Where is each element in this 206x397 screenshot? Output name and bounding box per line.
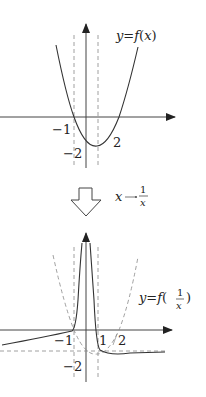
top-tick-neg1: −1	[52, 122, 71, 137]
transform-denominator: x	[140, 197, 146, 208]
tick-separator-slash	[113, 334, 117, 345]
maps-to-dot	[135, 196, 137, 198]
bottom-function-label: y=f(	[138, 290, 167, 305]
bottom-tick-neg2: −2	[63, 359, 82, 374]
bottom-tick-pos2: 2	[118, 333, 126, 348]
top-graph: y=f(x) −1 −2 2	[0, 24, 175, 168]
bottom-label-numerator: 1	[177, 287, 183, 298]
bottom-graph: y=f( 1 x ) −1 −2 1 2	[0, 233, 191, 382]
transform-x-label: x	[115, 189, 123, 204]
bottom-label-rparen: )	[186, 290, 191, 305]
transform-numerator: 1	[140, 184, 146, 195]
down-arrow-icon	[71, 188, 101, 216]
top-tick-pos2: 2	[113, 135, 121, 150]
top-tick-neg2: −2	[63, 146, 82, 161]
bottom-tick-pos1: 1	[99, 333, 107, 348]
transform-indicator: x 1 x	[71, 184, 148, 216]
bottom-tick-neg1: −1	[54, 333, 73, 348]
function-transform-diagram: y=f(x) −1 −2 2 x 1 x y=f( 1 x ) −1 −2 1	[0, 0, 206, 397]
bottom-label-denominator: x	[176, 300, 182, 311]
top-function-label: y=f(x)	[115, 28, 157, 43]
